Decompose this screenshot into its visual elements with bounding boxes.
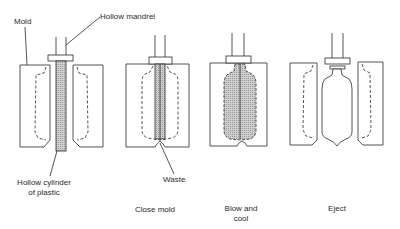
caption-eject: Eject — [328, 204, 346, 213]
caption-blow-and-cool-line1: Blow and — [225, 204, 258, 213]
label-parison-line2: of plastic — [28, 188, 60, 197]
step-2-close-mold — [126, 35, 189, 174]
label-waste: Waste — [163, 175, 185, 184]
mandrel-collar — [226, 56, 251, 63]
mold-right-half — [358, 62, 383, 145]
mold-right-half — [73, 65, 103, 147]
step-3-blow-and-cool — [210, 33, 267, 146]
blow-molding-diagram — [0, 0, 400, 229]
step-4-eject — [290, 33, 383, 146]
mold-left-half — [20, 65, 50, 147]
ejected-bottle — [322, 69, 352, 146]
caption-close-mold: Close mold — [135, 205, 175, 214]
label-parison-line1: Hollow cylinder — [17, 178, 71, 187]
label-mold: Mold — [14, 17, 31, 26]
caption-blow-and-cool-line2: cool — [234, 214, 249, 223]
mandrel-collar — [48, 55, 73, 61]
mold-left-half — [290, 63, 317, 145]
parison — [56, 61, 66, 151]
mandrel-collar — [149, 57, 172, 64]
mandrel-collar — [325, 58, 350, 64]
label-hollow-mandrel: Hollow mandrel — [100, 12, 155, 21]
bottle-neck-flange — [330, 66, 345, 69]
step-1-parison — [20, 17, 103, 176]
